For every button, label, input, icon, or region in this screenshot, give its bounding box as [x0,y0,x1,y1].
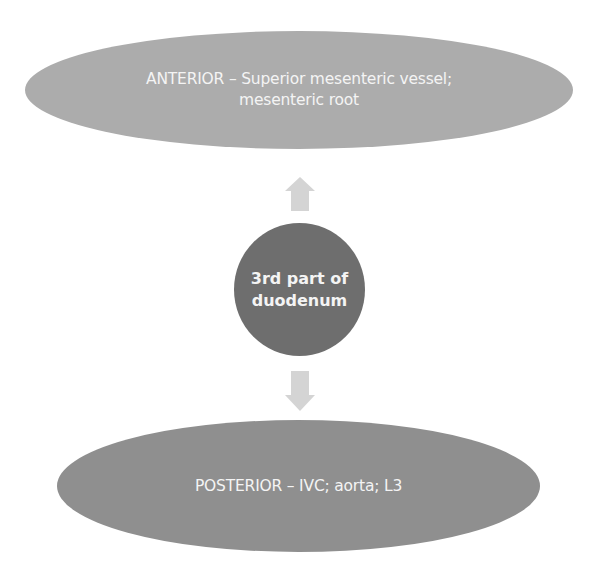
duodenum-circle: 3rd part of duodenum [234,223,365,356]
anterior-relations-ellipse: ANTERIOR – Superior mesenteric vessel; m… [25,31,573,149]
center-label-line2: duodenum [251,290,348,312]
anterior-relations-label: ANTERIOR – Superior mesenteric vessel; m… [145,69,453,111]
center-label-line1: 3rd part of [251,268,348,290]
posterior-relations-label: POSTERIOR – IVC; aorta; L3 [195,477,402,495]
arrow-down-icon [285,371,315,411]
posterior-relations-ellipse: POSTERIOR – IVC; aorta; L3 [57,420,540,552]
arrow-up-icon [285,177,315,211]
